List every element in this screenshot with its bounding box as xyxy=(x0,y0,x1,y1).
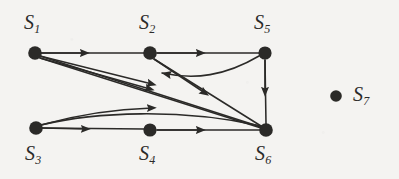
node-label-s1: S1 xyxy=(24,12,40,32)
edge-s5-s6 xyxy=(265,60,266,124)
node-label-s4: S4 xyxy=(139,143,155,163)
node-label-s7: S7 xyxy=(353,84,369,104)
node-label-s5: S5 xyxy=(254,12,270,32)
graph-canvas xyxy=(0,0,399,179)
edge-s3-s4 xyxy=(42,128,144,129)
node-s4 xyxy=(143,123,156,136)
node-s1 xyxy=(28,46,42,60)
graph-nodes xyxy=(28,46,342,137)
node-s7 xyxy=(330,90,342,102)
graph-figure: S1 S2 S5 S3 S4 S6 S7 xyxy=(0,0,399,179)
node-s2 xyxy=(143,46,157,60)
node-s3 xyxy=(29,121,43,135)
node-label-s3: S3 xyxy=(25,143,41,163)
node-label-s6: S6 xyxy=(255,143,271,163)
edge-s2-s6 xyxy=(154,59,261,126)
node-label-s2: S2 xyxy=(139,12,155,32)
node-s5 xyxy=(258,46,271,59)
node-s6 xyxy=(259,123,273,137)
